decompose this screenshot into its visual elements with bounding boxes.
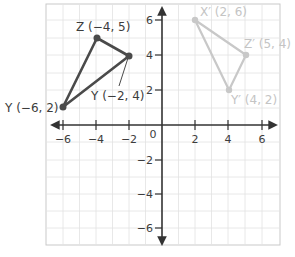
vertex-x-prime bbox=[192, 17, 198, 23]
vertex-z bbox=[94, 35, 101, 42]
y-tick-label: −4 bbox=[137, 188, 153, 201]
y-tick-label: 4 bbox=[146, 49, 153, 62]
x-tick-label: 6 bbox=[259, 133, 266, 146]
x-tick-label: −4 bbox=[88, 133, 104, 146]
label-z-prime: Z′ (5, 4) bbox=[244, 37, 291, 51]
label-y-lower: Y (−6, 2) bbox=[4, 101, 58, 115]
vertex-y-upper bbox=[126, 53, 133, 60]
origin-label: 0 bbox=[150, 128, 157, 141]
y-tick-label: 6 bbox=[146, 14, 153, 27]
y-tick-label: −6 bbox=[137, 222, 153, 235]
vertex-y-lower bbox=[60, 104, 67, 111]
x-tick-label: −2 bbox=[121, 133, 137, 146]
label-z: Z (−4, 5) bbox=[76, 20, 130, 34]
label-y-prime: Y′ (4, 2) bbox=[230, 93, 277, 107]
x-tick-label: 4 bbox=[225, 133, 232, 146]
y-tick-label: −2 bbox=[137, 154, 153, 167]
y-tick-label: 2 bbox=[146, 84, 153, 97]
label-x-prime: X′ (2, 6) bbox=[200, 5, 247, 19]
coordinate-plane: −6 −4 −2 2 4 6 0 6 4 2 −2 −4 −6 X′ (2, 6… bbox=[0, 0, 295, 257]
vertex-z-prime bbox=[243, 52, 249, 58]
x-tick-label: −6 bbox=[55, 133, 71, 146]
label-y-upper: Y (−2, 4) bbox=[90, 89, 144, 103]
x-tick-label: 2 bbox=[192, 133, 199, 146]
